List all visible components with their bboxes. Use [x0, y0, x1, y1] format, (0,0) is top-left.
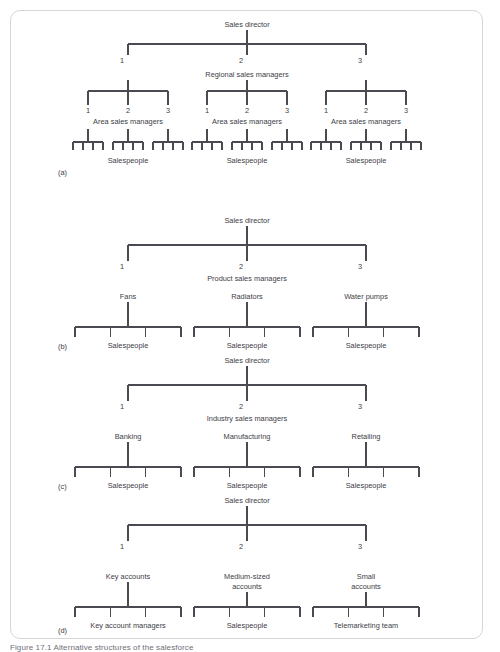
panel-c-leaf-label: Salespeople: [108, 481, 149, 490]
panel-a-group-number: 2: [126, 106, 130, 115]
salesforce-structure-diagram: Sales director123Regional sales managers…: [11, 11, 483, 639]
panel-b-level1-number: 3: [358, 262, 362, 271]
panel-b-leaf-label: Salespeople: [346, 341, 387, 350]
panel-c-branch-title: Manufacturing: [224, 432, 271, 441]
panel-d-root-label: Sales director: [224, 496, 270, 505]
panel-b-level1-number: 2: [239, 262, 243, 271]
panel-a-salespeople-label: Salespeople: [346, 156, 387, 165]
panel-d-level1-number: 3: [358, 542, 362, 551]
panel-c-branch-title: Retailing: [352, 432, 381, 441]
panel-c-level1-number: 3: [358, 402, 362, 411]
panel-a-group-number: 1: [86, 106, 90, 115]
panel-c-level1-number: 2: [239, 402, 243, 411]
panel-a-tag: (a): [58, 168, 67, 177]
panel-b-level1-number: 1: [120, 262, 124, 271]
panel-c-leaf-label: Salespeople: [346, 481, 387, 490]
figure-caption: Figure 17.1 Alternative structures of th…: [10, 643, 194, 652]
panel-a-group-number: 1: [324, 106, 328, 115]
panel-b-tag: (b): [58, 342, 67, 351]
panel-c-level1-number: 1: [120, 402, 124, 411]
panel-b-branch-title: Fans: [120, 292, 137, 301]
panel-a-level1-number: 2: [239, 56, 243, 65]
panel-a-level1-number: 1: [120, 56, 124, 65]
panel-c-level1-label: Industry sales managers: [207, 414, 288, 423]
panel-b-leaf-label: Salespeople: [108, 341, 149, 350]
panel-b-branch-title: Water pumps: [344, 292, 388, 301]
panel-b-leaf-label: Salespeople: [227, 341, 268, 350]
panel-d-level1-number: 1: [120, 542, 124, 551]
panel-b-level1-label: Product sales managers: [207, 274, 287, 283]
panel-a-group-label: Area sales managers: [93, 117, 163, 126]
panel-a-group-number: 3: [166, 106, 170, 115]
panel-b-root-label: Sales director: [224, 216, 270, 225]
panel-d-leaf-label: Telemarketing team: [334, 621, 399, 630]
panel-a-level1-number: 3: [358, 56, 362, 65]
panel-a-salespeople-label: Salespeople: [108, 156, 149, 165]
panel-d-branch-title: Key accounts: [106, 572, 151, 581]
figure-frame: Sales director123Regional sales managers…: [10, 10, 483, 639]
panel-c-branch-title: Banking: [115, 432, 142, 441]
panel-a-group-number: 1: [205, 106, 209, 115]
panel-c-tag: (c): [58, 482, 67, 491]
panel-a-group-label: Area sales managers: [212, 117, 282, 126]
panel-c-leaf-label: Salespeople: [227, 481, 268, 490]
panel-a-group-number: 2: [364, 106, 368, 115]
panel-c-root-label: Sales director: [224, 356, 270, 365]
panel-b-branch-title: Radiators: [231, 292, 263, 301]
panel-d-branch-title: Medium-sized: [224, 572, 270, 581]
panel-d-branch-title: Small: [357, 572, 376, 581]
panel-a-group-number: 2: [245, 106, 249, 115]
panel-d-tag: (d): [58, 626, 67, 635]
panel-d-leaf-label: Key account managers: [90, 621, 166, 630]
panel-d-branch-title2: accounts: [351, 582, 381, 591]
panel-a-root-label: Sales director: [224, 20, 270, 29]
panel-a-group-number: 3: [404, 106, 408, 115]
panel-a-level1-label: Regional sales managers: [205, 70, 289, 79]
panel-d-branch-title2: accounts: [232, 582, 262, 591]
panel-d-leaf-label: Salespeople: [227, 621, 268, 630]
panel-a-salespeople-label: Salespeople: [227, 156, 268, 165]
panel-a-group-number: 3: [285, 106, 289, 115]
panel-d-level1-number: 2: [239, 542, 243, 551]
panel-a-group-label: Area sales managers: [331, 117, 401, 126]
